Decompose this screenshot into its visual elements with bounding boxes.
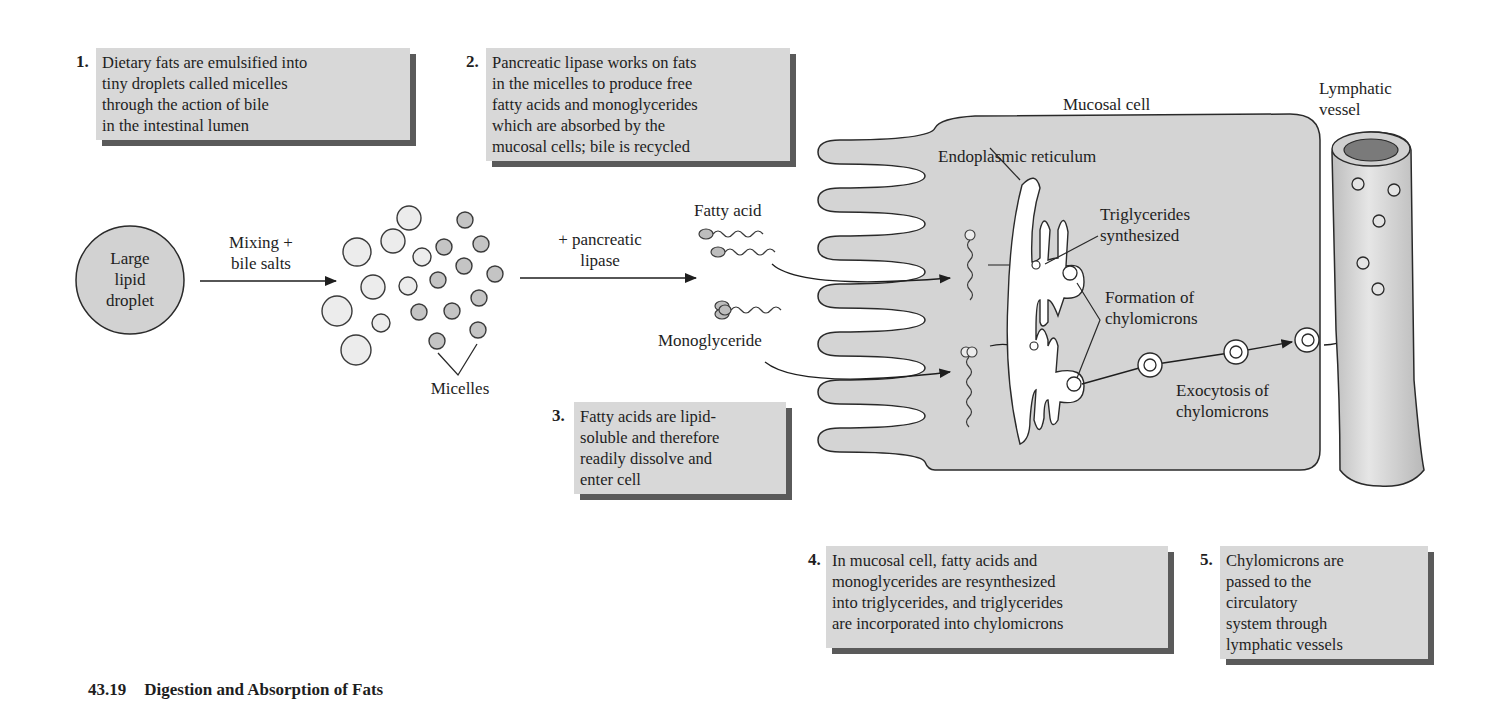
step-text: Dietary fats are emulsified into tiny dr… [96,48,410,140]
step-text: Pancreatic lipase works on fats in the m… [486,48,790,161]
step-number: 3. [552,405,565,426]
figure-number: 43.19 [88,680,126,699]
monoglyceride-molecule [715,301,781,319]
emulsified-droplets [322,206,431,365]
step-number: 1. [76,51,89,72]
figure-caption: 43.19Digestion and Absorption of Fats [88,680,383,700]
label-mixing-bile-salts: Mixing + bile salts [206,232,316,274]
step-number: 4. [808,549,821,570]
fatty-acid-molecules [699,229,775,257]
step-number: 5. [1200,549,1213,570]
label-pancreatic-lipase: + pancreatic lipase [530,229,670,271]
figure-title: Digestion and Absorption of Fats [144,680,383,699]
step-text: Fatty acids are lipid- soluble and there… [574,402,786,494]
step-text: Chylomicrons are passed to the circulato… [1220,546,1428,659]
label-formation-of-chylomicrons: Formation of chylomicrons [1105,287,1198,329]
label-monoglyceride: Monoglyceride [658,330,762,351]
label-lymphatic-vessel: Lymphatic vessel [1319,78,1392,120]
label-micelles: Micelles [410,378,510,399]
micelles-pointer [438,344,477,375]
lymphatic-vessel [1332,132,1424,486]
step-number: 2. [466,51,479,72]
label-large-lipid-droplet: Large lipid droplet [88,248,172,311]
micelles [411,212,503,349]
label-triglycerides-synthesized: Triglycerides synthesized [1100,204,1190,246]
vessel-lumen [1344,139,1398,161]
label-mucosal-cell: Mucosal cell [1063,94,1150,115]
label-exocytosis-of-chylomicrons: Exocytosis of chylomicrons [1176,380,1269,422]
step-text: In mucosal cell, fatty acids and monogly… [826,546,1168,648]
label-fatty-acid: Fatty acid [694,200,762,221]
label-endoplasmic-reticulum: Endoplasmic reticulum [938,146,1096,167]
